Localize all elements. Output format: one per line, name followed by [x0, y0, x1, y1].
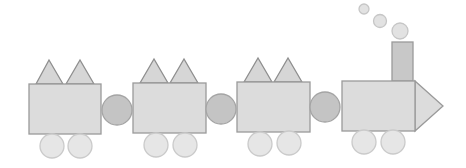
car-body [237, 82, 310, 132]
wheel [144, 133, 168, 157]
wheel [173, 133, 197, 157]
wheel [40, 134, 64, 158]
roof-triangle [274, 58, 302, 82]
roof-triangle [170, 59, 198, 83]
wheel [68, 134, 92, 158]
engine-body [342, 81, 415, 131]
wheel [352, 130, 376, 154]
car-2 [133, 59, 206, 157]
smoke-puff [392, 23, 408, 39]
train-illustration [0, 0, 466, 168]
engine [342, 4, 443, 154]
car-body [29, 84, 101, 134]
engine-nose [415, 81, 443, 131]
wheel [381, 130, 405, 154]
car-1 [29, 60, 101, 158]
car-body [133, 83, 206, 133]
roof-triangle [36, 60, 63, 84]
wheel [248, 132, 272, 156]
smoke-puff [359, 4, 369, 14]
coupler-circle [310, 92, 340, 122]
coupler-circle [102, 95, 132, 125]
wheel [277, 131, 301, 155]
coupler-circle [206, 94, 236, 124]
smoke-puff [374, 15, 387, 28]
train-cars [29, 58, 310, 158]
roof-triangle [244, 58, 272, 82]
roof-triangle [140, 59, 168, 83]
roof-triangle [66, 60, 94, 84]
car-3 [237, 58, 310, 156]
chimney [392, 42, 413, 81]
